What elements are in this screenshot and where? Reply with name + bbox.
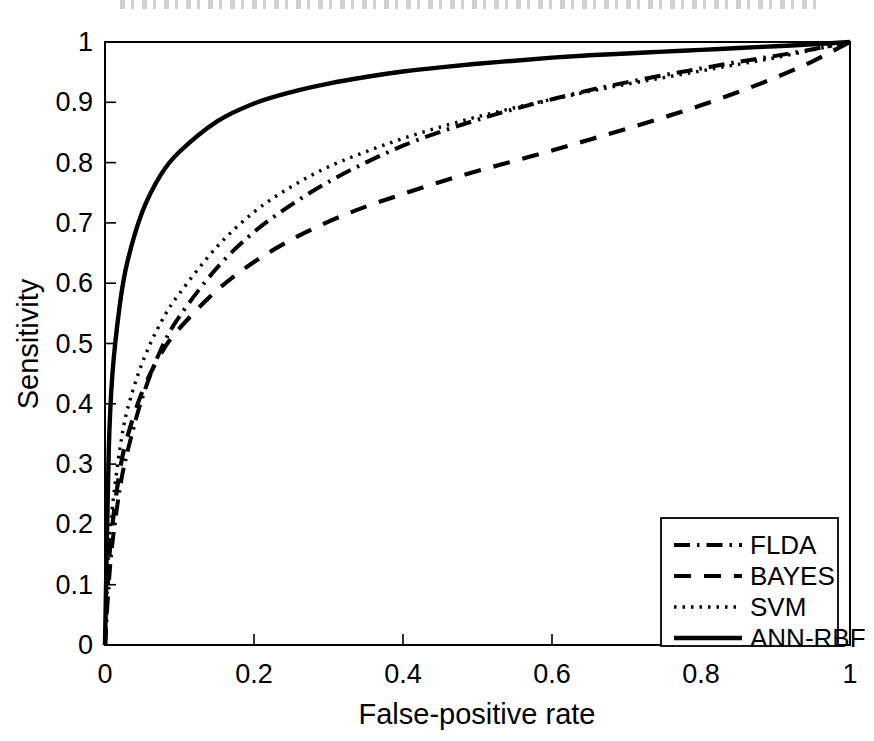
x-tick-label-0.8: 0.8 xyxy=(682,659,720,689)
x-tick-label-0.6: 0.6 xyxy=(533,659,571,689)
legend-label-svm[interactable]: SVM xyxy=(750,592,806,622)
x-tick-label-1: 1 xyxy=(842,659,857,689)
x-tick-label-0.2: 0.2 xyxy=(235,659,273,689)
x-tick-label-0.4: 0.4 xyxy=(384,659,422,689)
x-axis-title: False-positive rate xyxy=(359,698,596,730)
y-tick-label-0.2: 0.2 xyxy=(55,509,93,539)
y-tick-label-0.5: 0.5 xyxy=(55,329,93,359)
roc-chart-canvas: 00.20.40.60.81 00.10.20.30.40.50.60.70.8… xyxy=(0,0,874,741)
legend-label-bayes[interactable]: BAYES xyxy=(750,561,835,591)
y-tick-label-0.1: 0.1 xyxy=(55,570,93,600)
y-tick-label-0.7: 0.7 xyxy=(55,208,93,238)
y-tick-label-0.9: 0.9 xyxy=(55,87,93,117)
y-axis-tick-labels: 00.10.20.30.40.50.60.70.80.91 xyxy=(55,27,93,660)
legend-label-ann-rbf[interactable]: ANN-RBF xyxy=(750,623,866,653)
y-tick-label-1: 1 xyxy=(78,27,93,57)
roc-figure: 00.20.40.60.81 00.10.20.30.40.50.60.70.8… xyxy=(0,0,874,741)
chart-legend[interactable]: FLDABAYESSVMANN-RBF xyxy=(661,518,866,653)
y-tick-label-0.6: 0.6 xyxy=(55,268,93,298)
y-tick-label-0.8: 0.8 xyxy=(55,148,93,178)
y-tick-label-0.3: 0.3 xyxy=(55,449,93,479)
legend-label-flda[interactable]: FLDA xyxy=(750,530,817,560)
x-axis-tick-labels: 00.20.40.60.81 xyxy=(97,659,857,689)
y-axis-title: Sensitivity xyxy=(12,278,44,409)
y-tick-label-0: 0 xyxy=(78,630,93,660)
y-tick-label-0.4: 0.4 xyxy=(55,389,93,419)
x-tick-label-0: 0 xyxy=(97,659,112,689)
